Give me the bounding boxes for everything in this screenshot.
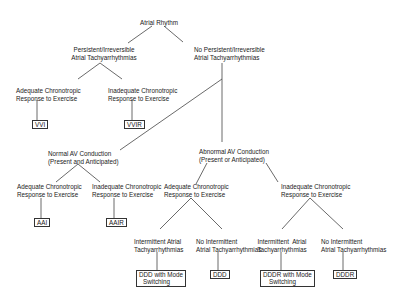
node-label-line2: Atrial Tachyarrhythmias <box>194 54 265 62</box>
node-abnormal-av-conduction: Abnormal AV Conduction (Present or Antic… <box>199 148 269 163</box>
node-label-line1: No Intermittent <box>321 238 386 246</box>
node-label-line1: No Persistent/Irreversible <box>194 46 265 54</box>
result-box-dddr: DDDR <box>333 270 357 279</box>
result-box-aai: AAI <box>34 218 50 227</box>
node-label-line2: Atrial Tachyarrhythmias <box>196 246 261 254</box>
node-abnormal-adequate-response: Adequate Chronotropic Response to Exerci… <box>164 183 229 198</box>
node-label-line2: Response to Exercise <box>108 95 177 103</box>
node-persistent-tachyarrhythmias: Persistent/Irreversible Atrial Tachyarrh… <box>70 46 138 61</box>
node-label-line2: Response to Exercise <box>281 191 350 199</box>
node-label-line1: Persistent/Irreversible <box>70 46 138 54</box>
result-box-aair: AAIR <box>106 218 127 227</box>
node-abnormal-inadequate-response: Inadequate Chronotropic Response to Exer… <box>281 183 350 198</box>
result-label: AAI <box>37 219 47 226</box>
node-label-line1: Adequate Chronotropic <box>16 87 81 95</box>
result-label: DDDR <box>336 271 354 278</box>
node-label-line1: Adequate Chronotropic <box>17 183 82 191</box>
result-label: VVI <box>35 121 45 128</box>
node-label-line2: Atrial Tachyarrhythmias <box>321 246 386 254</box>
node-no-persistent-tachyarrhythmias: No Persistent/Irreversible Atrial Tachya… <box>194 46 265 61</box>
node-persistent-inadequate-response: Inadequate Chronotropic Response to Exer… <box>108 87 177 102</box>
node-label-line1: Adequate Chronotropic <box>164 183 229 191</box>
result-box-vvir: VVIR <box>124 120 145 129</box>
node-label-line2: Response to Exercise <box>17 191 82 199</box>
result-label-line2: Switching <box>139 278 183 285</box>
result-box-ddd: DDD <box>210 270 230 279</box>
result-label-line2: Switching <box>263 278 312 285</box>
result-label: AAIR <box>109 219 124 226</box>
result-box-vvi: VVI <box>32 120 48 129</box>
node-abnormal-inadequate-no-intermittent: No Intermittent Atrial Tachyarrhythmias <box>321 238 386 253</box>
node-persistent-adequate-response: Adequate Chronotropic Response to Exerci… <box>16 87 81 102</box>
node-normal-av-conduction: Normal AV Conduction (Present and Antici… <box>48 150 119 165</box>
node-normal-adequate-response: Adequate Chronotropic Response to Exerci… <box>17 183 82 198</box>
result-label: VVIR <box>127 121 142 128</box>
node-label-line1: Intermittent Atrial <box>257 238 307 246</box>
node-label-line1: Inadequate Chronotropic <box>281 183 350 191</box>
node-abnormal-inadequate-intermittent: Intermittent Atrial Tachyarrhythmias <box>257 238 307 253</box>
node-label-line1: Inadequate Chronotropic <box>108 87 177 95</box>
result-label-line1: DDDR with Mode <box>263 271 312 278</box>
result-label-line1: DDD with Mode <box>139 271 183 278</box>
node-normal-inadequate-response: Inadequate Chronotropic Response to Exer… <box>92 183 161 198</box>
node-label-line2: (Present or Anticipated) <box>199 156 269 164</box>
node-label-line2: Response to Exercise <box>164 191 229 199</box>
node-label: Atrial Rhythm <box>140 19 178 26</box>
node-label-line2: Response to Exercise <box>16 95 81 103</box>
node-label-line1: Normal AV Conduction <box>48 150 119 158</box>
result-label: DDD <box>213 271 227 278</box>
node-label-line1: Inadequate Chronotropic <box>92 183 161 191</box>
result-box-dddr-mode-switching: DDDR with Mode Switching <box>260 270 315 287</box>
node-abnormal-adequate-no-intermittent: No Intermittent Atrial Tachyarrhythmias <box>196 238 261 253</box>
node-label-line1: Intermittent Atrial <box>134 238 180 246</box>
node-atrial-rhythm: Atrial Rhythm <box>136 19 182 27</box>
node-label-line2: Tachyarrhythmias <box>257 246 307 254</box>
result-box-ddd-mode-switching: DDD with Mode Switching <box>136 270 186 287</box>
node-abnormal-adequate-intermittent: Intermittent Atrial Tachyarrhythmias <box>134 238 180 253</box>
node-label-line2: Tachyarrhythmias <box>134 246 180 254</box>
node-label-line1: Abnormal AV Conduction <box>199 148 269 156</box>
node-label-line2: Atrial Tachyarrhythmias <box>70 54 138 62</box>
node-label-line2: (Present and Anticipated) <box>48 158 119 166</box>
node-label-line1: No Intermittent <box>196 238 261 246</box>
node-label-line2: Response to Exercise <box>92 191 161 199</box>
